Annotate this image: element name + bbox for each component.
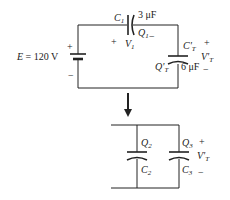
down-arrow-icon bbox=[124, 93, 132, 117]
vt-label: V'T bbox=[201, 51, 214, 64]
wire-top-left bbox=[78, 25, 127, 54]
source-label: E = 120 V bbox=[16, 51, 59, 62]
source-minus: − bbox=[68, 70, 74, 81]
v1-plus: + bbox=[111, 36, 117, 47]
q2-label: Q2 bbox=[141, 137, 152, 150]
vt2-label: V'T bbox=[197, 150, 210, 163]
v1-label: V1 bbox=[125, 38, 135, 51]
q1-minus: − bbox=[149, 31, 155, 42]
source-plus: + bbox=[67, 41, 73, 52]
vt2-plus: + bbox=[199, 136, 205, 147]
q3-label: Q3 bbox=[182, 137, 193, 150]
capacitor-c2-icon bbox=[127, 152, 147, 160]
c2-label: C2 bbox=[141, 164, 152, 177]
capacitor-c3-icon bbox=[169, 152, 189, 160]
c1-value: 3 μF bbox=[138, 9, 157, 20]
c1-label: C1 bbox=[114, 12, 124, 25]
top-circuit: E = 120 V + − C1 3 μF Q1 − + V1 C'T Q'T … bbox=[16, 9, 214, 88]
c3-label: C3 bbox=[182, 164, 193, 177]
vt2-minus: − bbox=[198, 167, 204, 178]
ct-value: 6 μF bbox=[181, 61, 200, 72]
qt-label: Q'T bbox=[155, 61, 169, 74]
battery-icon bbox=[70, 54, 86, 59]
bottom-circuit: Q2 C2 Q3 C3 + V'T − bbox=[111, 125, 210, 188]
circuit-diagram: E = 120 V + − C1 3 μF Q1 − + V1 C'T Q'T … bbox=[0, 0, 230, 200]
ct-label: C'T bbox=[183, 40, 197, 53]
vt-minus: − bbox=[203, 64, 209, 75]
vt-plus: + bbox=[204, 37, 210, 48]
q1-label: Q1 bbox=[138, 27, 149, 40]
